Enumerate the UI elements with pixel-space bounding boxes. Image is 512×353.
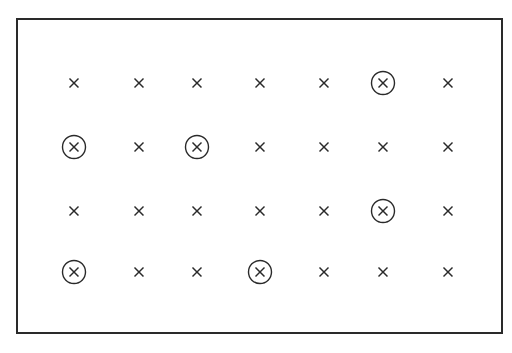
cross-icon bbox=[435, 70, 461, 96]
cross-icon bbox=[126, 259, 152, 285]
cross-icon bbox=[311, 259, 337, 285]
cross-icon bbox=[61, 70, 87, 96]
circled-cross-icon bbox=[61, 134, 87, 160]
cross-icon bbox=[247, 198, 273, 224]
circled-cross-icon bbox=[184, 134, 210, 160]
diagram-frame bbox=[16, 18, 503, 334]
cross-icon bbox=[311, 198, 337, 224]
cross-icon bbox=[311, 134, 337, 160]
cross-icon bbox=[370, 259, 396, 285]
circled-cross-icon bbox=[247, 259, 273, 285]
circled-cross-icon bbox=[61, 259, 87, 285]
cross-icon bbox=[126, 70, 152, 96]
cross-icon bbox=[61, 198, 87, 224]
circled-cross-icon bbox=[370, 198, 396, 224]
cross-icon bbox=[435, 259, 461, 285]
cross-icon bbox=[126, 198, 152, 224]
cross-icon bbox=[184, 198, 210, 224]
cross-icon bbox=[184, 259, 210, 285]
cross-icon bbox=[370, 134, 396, 160]
cross-icon bbox=[247, 70, 273, 96]
cross-icon bbox=[247, 134, 273, 160]
cross-icon bbox=[435, 134, 461, 160]
cross-icon bbox=[435, 198, 461, 224]
cross-icon bbox=[311, 70, 337, 96]
cross-icon bbox=[184, 70, 210, 96]
circled-cross-icon bbox=[370, 70, 396, 96]
cross-icon bbox=[126, 134, 152, 160]
